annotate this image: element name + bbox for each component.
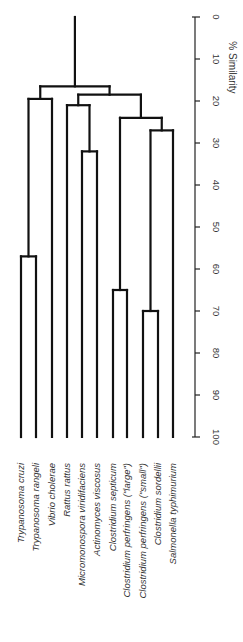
axis-tick-label: 100 [211,429,222,445]
axis-title: % Similarity [227,41,238,93]
axis-tick-label: 20 [211,96,222,107]
axis-tick-label: 40 [211,180,222,191]
dendrogram-branches [21,17,173,437]
leaf-label: Clostridium perfringens ("small") [137,463,148,599]
axis-tick-label: 0 [211,14,222,19]
leaf-label: Trypanosoma rangeli [30,462,41,551]
axis-tick-label: 90 [211,390,222,401]
leaf-label: Actinomyces viscosus [91,463,102,557]
leaf-label: Clostridium sordellii [152,462,163,545]
leaf-label: Trypanosoma cruzi [15,462,26,543]
axis-tick-label: 30 [211,138,222,149]
similarity-axis: 0102030405060708090100 % Similarity [192,14,238,445]
dendrogram-chart: 0102030405060708090100 % Similarity Tryp… [0,0,243,642]
leaf-labels: Trypanosoma cruziTrypanosoma rangeliVibr… [15,462,178,598]
axis-tick-label: 10 [211,54,222,65]
axis-tick-label: 70 [211,306,222,317]
leaf-label: Clostridium septicum [107,463,118,551]
leaf-label: Rattus rattus [61,463,72,517]
leaf-label: Salmonella typhimurium [167,463,178,564]
axis-tick-label: 80 [211,348,222,359]
axis-ticks: 0102030405060708090100 [192,14,222,445]
axis-tick-label: 60 [211,264,222,275]
leaf-label: Vibrio cholerae [46,463,57,526]
axis-tick-label: 50 [211,222,222,233]
leaf-label: Clostridium perfringens ("large") [121,463,132,598]
leaf-label: Micromonospora viridifaciens [76,463,87,586]
